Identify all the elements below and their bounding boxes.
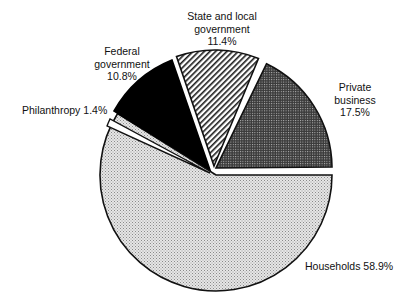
label-line: State and local <box>170 10 274 23</box>
label-line: Private <box>320 81 390 94</box>
label-line: business <box>320 94 390 107</box>
label-philanthropy: Philanthropy 1.4% <box>22 104 107 117</box>
label-value: 17.5% <box>320 106 390 119</box>
label-line: Federal <box>82 45 162 58</box>
label-private-business: Private business 17.5% <box>320 81 390 119</box>
label-value: 11.4% <box>170 35 274 48</box>
label-line: Households 58.9% <box>305 260 393 273</box>
label-line: government <box>82 58 162 71</box>
label-federal-government: Federal government 10.8% <box>82 45 162 83</box>
label-value: 10.8% <box>82 70 162 83</box>
label-line: Philanthropy 1.4% <box>22 104 107 117</box>
label-households: Households 58.9% <box>305 260 393 273</box>
label-state-local-government: State and local government 11.4% <box>170 10 274 48</box>
label-line: government <box>170 23 274 36</box>
